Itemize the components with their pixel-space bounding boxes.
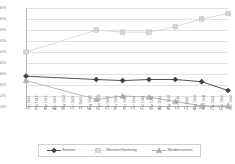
data-point-marker [225,88,230,93]
legend-entry: Mediterranean [152,147,192,154]
y-axis-tick-label: 80% [0,17,6,21]
y-axis-tick-label: 40% [0,61,6,65]
x-axis-tick-label: Jun 1944 [177,96,181,110]
y-axis-tick-label: 60% [0,39,6,43]
x-axis-tick-label: Jun 1943 [72,96,76,110]
legend-entry: Western/Germany [91,147,137,154]
x-axis-tick-label: May 1943 [63,95,67,110]
x-axis-tick-label: Feb 1944 [142,96,146,110]
data-point-marker [24,50,29,55]
y-axis-tick-label: 10% [0,94,6,98]
x-axis-labels: Jan 1943Feb 1943Mar 1943Apr 1943May 1943… [26,107,228,143]
legend-key-diamond-icon [47,147,61,154]
x-axis-tick-label: Aug 1944 [194,95,198,110]
chart-legend: EasternWestern/GermanyMediterranean [38,144,201,157]
y-axis-tick-label: 50% [0,50,6,54]
x-axis-tick-label: Jul 1943 [80,97,84,110]
data-point-marker [120,78,125,83]
y-axis-tick-label: 70% [0,28,6,32]
legend-label: Eastern [62,148,75,152]
data-point-marker [173,77,178,82]
x-axis-tick-label: Dec 1943 [124,95,128,110]
data-point-marker [146,77,151,82]
data-point-marker [120,30,125,35]
data-point-marker [226,11,231,16]
legend-label: Western/Germany [106,148,137,152]
series-line [26,14,228,53]
data-point-marker [199,17,204,22]
y-axis-tick-label: 30% [0,72,6,76]
x-axis-tick-label: Sept 1944 [203,95,207,111]
x-axis-tick-label: Oct 1943 [107,96,111,110]
legend-key-square-icon [91,147,105,154]
x-axis-tick-label: Aug 1943 [89,95,93,110]
x-axis-tick-label: Jul 1944 [186,97,190,110]
x-axis-tick-label: Jan 1943 [28,96,32,110]
legend-key-triangle-icon [152,147,166,154]
x-axis-tick-label: Sept 1943 [98,95,102,111]
data-point-marker [23,78,29,83]
legend-label: Mediterranean [168,148,193,152]
x-axis-tick-label: Feb 1943 [36,96,40,110]
x-axis-tick-label: Apr 1944 [159,96,163,110]
x-axis-tick-label: May 1944 [168,95,172,110]
x-axis-tick-label: Mar 1943 [45,96,49,110]
data-point-marker [147,30,152,35]
x-axis-tick-label: Mar 1944 [151,96,155,110]
x-axis-tick-label: Apr 1943 [54,96,58,110]
series-eastern [23,74,230,94]
x-axis-tick-label: Dec 1944 [230,95,234,110]
x-axis-tick-label: Nov 1943 [115,95,119,110]
data-point-marker [173,24,178,29]
y-axis-tick-label: 0% [0,105,6,109]
series-western-germany [24,11,231,54]
y-axis-tick-label: 90% [0,6,6,10]
x-axis-tick-label: Jan 1944 [133,96,137,110]
legend-entry: Eastern [47,147,76,154]
data-point-marker [199,79,204,84]
line-chart: 90%80%70%60%50%40%30%20%10%0% Jan 1943Fe… [0,0,235,164]
x-axis-tick-label: Nov 1944 [221,95,225,110]
series-layer [26,8,228,107]
x-axis-tick-label: Oct 1944 [212,96,216,110]
data-point-marker [94,77,99,82]
y-axis-tick-label: 20% [0,83,6,87]
data-point-marker [94,28,99,33]
